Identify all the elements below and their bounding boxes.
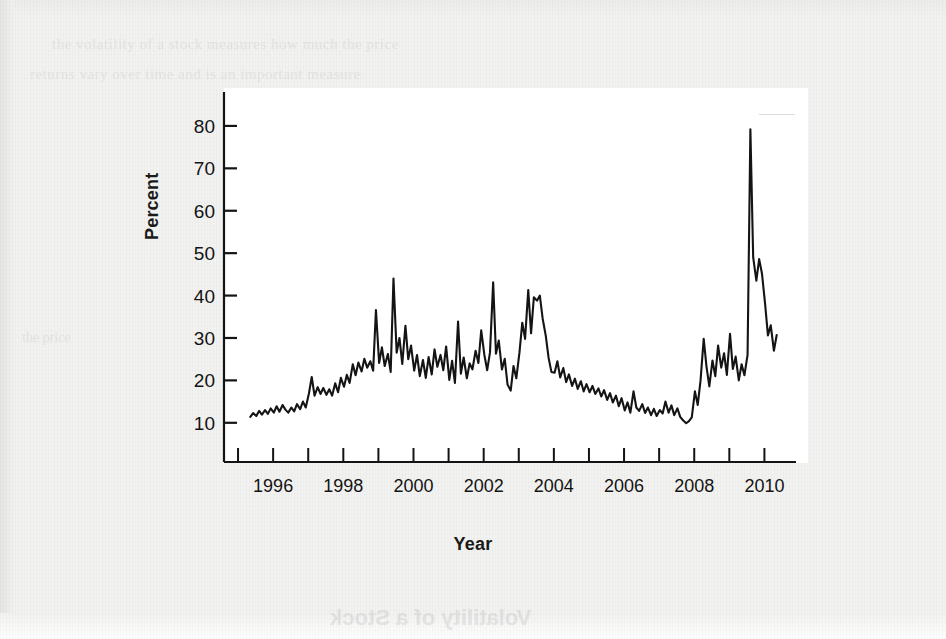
y-tick-label: 40: [194, 286, 215, 307]
volatility-figure: 8070605040302010199619982000200220042006…: [212, 88, 808, 463]
series-line: [250, 129, 776, 423]
y-tick-label: 30: [194, 328, 215, 349]
x-tick-label: 2002: [464, 476, 504, 496]
y-tick-label: 10: [194, 413, 215, 434]
chart-axes: 8070605040302010199619982000200220042006…: [194, 92, 796, 496]
x-tick-label: 2008: [674, 476, 714, 496]
y-tick-label: 80: [194, 116, 215, 137]
y-tick-label: 70: [194, 158, 215, 179]
page-edge-top-shading: [0, 0, 946, 16]
y-tick-label: 50: [194, 243, 215, 264]
x-tick-label: 1998: [323, 476, 363, 496]
volatility-line-chart: 8070605040302010199619982000200220042006…: [212, 88, 808, 463]
chart-series-group: [250, 129, 776, 423]
x-axis-title: Year: [0, 534, 946, 555]
y-axis-title: Percent: [142, 173, 163, 240]
x-tick-label: 2000: [393, 476, 433, 496]
x-tick-label: 2004: [534, 476, 574, 496]
bleed-through-text-middle: the price: [22, 330, 71, 346]
page-edge-bottom-shading: [0, 613, 946, 639]
x-tick-label: 1996: [253, 476, 293, 496]
x-tick-label: 2006: [604, 476, 644, 496]
bleed-through-text-top-1: the volatility of a stock measures how m…: [52, 36, 399, 53]
x-tick-label: 2010: [744, 476, 784, 496]
y-tick-label: 60: [194, 201, 215, 222]
y-tick-label: 20: [194, 370, 215, 391]
bleed-through-text-top-2: returns vary over time and is an importa…: [30, 66, 361, 83]
scanned-page: the volatility of a stock measures how m…: [0, 0, 946, 639]
